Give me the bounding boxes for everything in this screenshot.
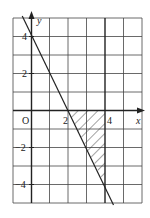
graph: y x O 2 4 4 2 −2 −4 — [0, 0, 150, 218]
y-tick-minus-2: −2 — [15, 142, 26, 153]
y-tick-4: 4 — [22, 31, 27, 42]
x-tick-4: 4 — [107, 115, 112, 126]
axes — [13, 15, 142, 203]
x-axis-arrow-icon — [137, 108, 145, 114]
x-axis-label: x — [135, 115, 141, 126]
y-axis-label: y — [36, 15, 42, 26]
y-tick-2: 2 — [22, 68, 27, 79]
origin-label: O — [22, 115, 29, 126]
x-tick-2: 2 — [63, 115, 68, 126]
y-tick-minus-4: −4 — [15, 179, 26, 190]
y-axis-arrow-icon — [29, 11, 35, 19]
